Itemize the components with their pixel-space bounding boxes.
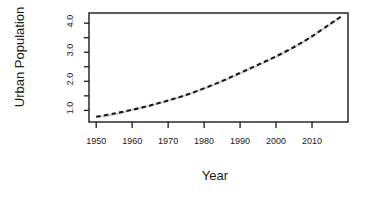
- series-observed: [96, 17, 341, 118]
- plot-border: [89, 13, 348, 122]
- series-fitted: [96, 17, 341, 117]
- x-tick-label: 1980: [184, 136, 224, 146]
- x-axis-title: Year: [150, 168, 280, 183]
- y-tick-label: 1.0: [65, 95, 75, 121]
- chart-figure: 1.02.03.04.0 195019601970198019902000201…: [0, 0, 365, 200]
- x-tick-label: 2000: [256, 136, 296, 146]
- data-series-layer: [96, 17, 341, 118]
- x-tick-label: 1970: [148, 136, 188, 146]
- x-tick-label: 1950: [76, 136, 116, 146]
- y-tick-label: 2.0: [65, 66, 75, 92]
- x-tick-label: 1990: [220, 136, 260, 146]
- y-tick-label: 4.0: [65, 8, 75, 34]
- x-tick-label: 1960: [112, 136, 152, 146]
- y-axis-ticks: [84, 23, 89, 110]
- x-tick-label: 2010: [292, 136, 332, 146]
- y-axis-title: Urban Population: [12, 0, 30, 122]
- y-tick-label: 3.0: [65, 37, 75, 63]
- x-axis-ticks: [96, 122, 312, 128]
